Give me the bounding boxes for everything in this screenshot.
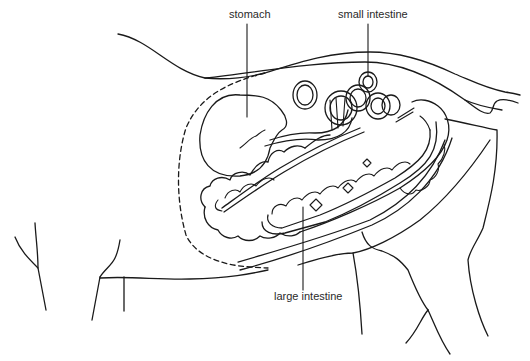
label-small-intestine: small intestine (338, 8, 408, 20)
stomach-shape (200, 95, 287, 176)
digestive-system-diagram (0, 0, 530, 361)
label-stomach: stomach (229, 8, 271, 20)
small-intestine-shape (265, 72, 414, 146)
large-intestine-shape (201, 100, 452, 270)
body-outline (15, 34, 520, 354)
leader-lines (247, 24, 368, 290)
abdominal-boundary-dashed (179, 73, 269, 268)
label-large-intestine: large intestine (274, 290, 343, 302)
